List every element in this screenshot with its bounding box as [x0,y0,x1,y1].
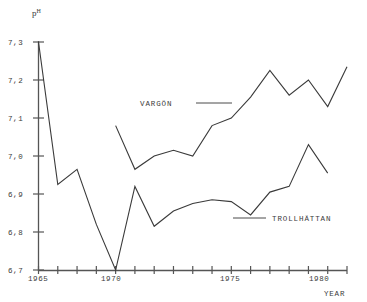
x-tick-label-1965: 1965 [28,275,48,283]
chart-canvas: 7,3 7,2 7,1 7,0 6,9 6,8 6,7 1965 1970 19… [0,0,367,302]
y-tick-label-0: 7,3 [8,39,23,47]
x-tick-label-1975: 1975 [220,275,240,283]
x-tick-label-1970: 1970 [101,275,121,283]
x-axis-title: YEAR [324,290,345,298]
y-axis-title: pH [32,8,42,19]
series-line-vargon [116,67,347,170]
series-label-vargon: VARGÖN [140,100,172,108]
x-tick-label-1980: 1980 [309,275,329,283]
y-tick-label-2: 7,1 [8,115,23,123]
y-tick-label-3: 7,0 [8,153,23,161]
series-label-trollhattan: TROLLHÄTTAN [272,215,331,223]
y-tick-label-6: 6,7 [8,267,23,275]
ph-line-chart: 7,3 7,2 7,1 7,0 6,9 6,8 6,7 1965 1970 19… [0,0,367,302]
y-axis-title-sup: H [37,8,42,14]
y-tick-label-1: 7,2 [8,77,23,85]
series-line-trollhattan [39,42,328,270]
y-tick-label-5: 6,8 [8,229,23,237]
y-tick-label-4: 6,9 [8,191,23,199]
